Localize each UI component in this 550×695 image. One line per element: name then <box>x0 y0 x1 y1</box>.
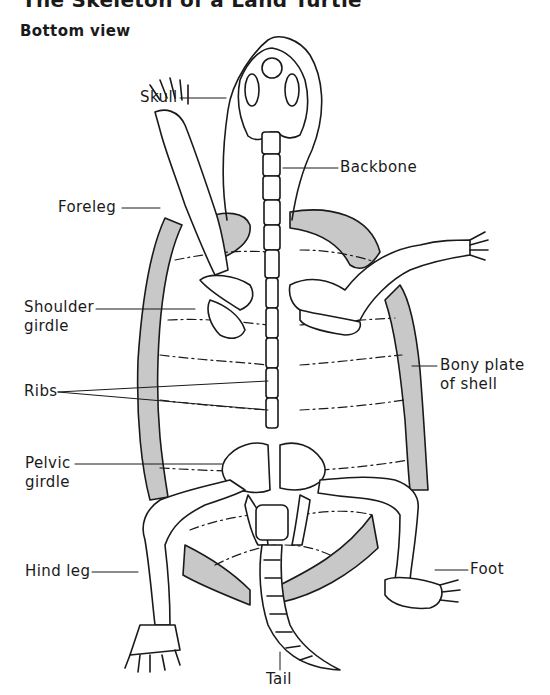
label-shoulder-girdle: Shoulder girdle <box>24 298 94 336</box>
turtle-skeleton-illustration <box>0 0 550 695</box>
label-tail: Tail <box>266 670 292 689</box>
label-skull: Skull <box>140 88 178 107</box>
hind-leg-right <box>318 477 460 608</box>
label-pelvic-girdle: Pelvic girdle <box>25 454 71 492</box>
label-hind-leg: Hind leg <box>25 562 90 581</box>
label-backbone: Backbone <box>340 158 417 177</box>
foreleg-left <box>150 78 253 338</box>
backbone <box>262 132 280 428</box>
label-foot: Foot <box>470 560 504 579</box>
label-bony-plate: Bony plate of shell <box>440 356 525 394</box>
label-ribs: Ribs <box>24 382 58 401</box>
label-foreleg: Foreleg <box>58 198 116 217</box>
foreleg-right <box>289 232 488 335</box>
